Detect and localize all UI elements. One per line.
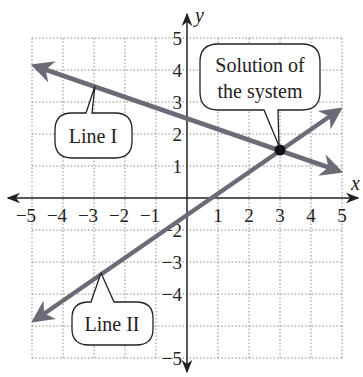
svg-text:5: 5 bbox=[337, 205, 347, 226]
svg-text:−4: −4 bbox=[162, 284, 183, 305]
y-axis-label: y bbox=[193, 4, 204, 27]
svg-text:−3: −3 bbox=[78, 205, 98, 226]
coordinate-plane: x y −5 −4 −3 −2 −1 1 2 3 4 5 5 4 3 2 1 −… bbox=[0, 0, 363, 377]
svg-text:−1: −1 bbox=[140, 205, 160, 226]
svg-text:−5: −5 bbox=[162, 348, 182, 369]
svg-text:the system: the system bbox=[218, 80, 303, 103]
svg-text:5: 5 bbox=[173, 28, 183, 49]
svg-text:Solution of: Solution of bbox=[215, 54, 305, 76]
svg-text:3: 3 bbox=[275, 205, 285, 226]
svg-text:−5: −5 bbox=[16, 205, 36, 226]
svg-text:Line II: Line II bbox=[85, 313, 140, 335]
svg-text:Line I: Line I bbox=[69, 125, 117, 147]
svg-text:4: 4 bbox=[306, 205, 316, 226]
x-axis-label: x bbox=[350, 172, 360, 194]
svg-text:−3: −3 bbox=[162, 252, 182, 273]
svg-text:−2: −2 bbox=[109, 205, 129, 226]
svg-text:2: 2 bbox=[173, 124, 183, 145]
svg-text:1: 1 bbox=[173, 156, 183, 177]
solution-point bbox=[275, 145, 286, 156]
svg-text:2: 2 bbox=[244, 205, 254, 226]
svg-text:−4: −4 bbox=[47, 205, 68, 226]
svg-text:1: 1 bbox=[213, 205, 223, 226]
svg-text:4: 4 bbox=[173, 60, 183, 81]
svg-text:3: 3 bbox=[173, 92, 183, 113]
